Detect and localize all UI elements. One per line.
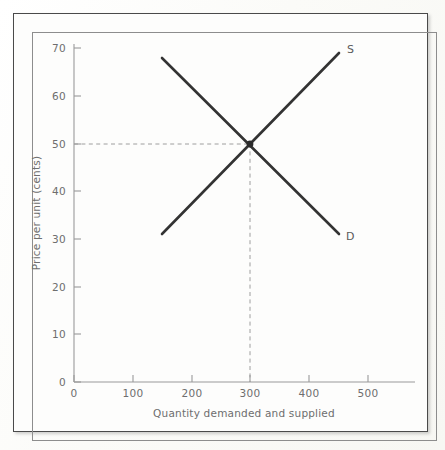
y-tick-label-0: 0 bbox=[59, 376, 66, 388]
x-axis-ticks bbox=[74, 375, 368, 382]
x-tick-label-200: 200 bbox=[182, 387, 203, 399]
x-axis-title: Quantity demanded and supplied bbox=[153, 407, 335, 419]
y-axis-ticks bbox=[74, 48, 81, 382]
x-tick-label-300: 300 bbox=[240, 387, 261, 399]
supply-demand-chart: 0 10 20 30 40 50 60 70 0 100 bbox=[0, 0, 445, 450]
chart-plot-area: 0 10 20 30 40 50 60 70 0 100 bbox=[0, 0, 445, 450]
y-tick-label-20: 20 bbox=[52, 281, 66, 293]
y-axis-title: Price per unit (cents) bbox=[30, 156, 42, 270]
y-tick-label-10: 10 bbox=[52, 328, 66, 340]
demand-curve-label: D bbox=[346, 230, 355, 243]
y-tick-label-30: 30 bbox=[52, 233, 66, 245]
equilibrium-guides bbox=[74, 144, 250, 382]
x-tick-label-400: 400 bbox=[299, 387, 320, 399]
x-tick-label-100: 100 bbox=[123, 387, 144, 399]
y-tick-label-40: 40 bbox=[52, 185, 66, 197]
y-tick-label-60: 60 bbox=[52, 90, 66, 102]
figure-page: 0 10 20 30 40 50 60 70 0 100 bbox=[0, 0, 445, 450]
y-tick-label-50: 50 bbox=[52, 138, 66, 150]
axes bbox=[74, 44, 415, 382]
x-tick-label-500: 500 bbox=[358, 387, 379, 399]
x-tick-label-0: 0 bbox=[71, 387, 78, 399]
supply-curve-label: S bbox=[347, 43, 354, 56]
y-tick-label-70: 70 bbox=[52, 42, 66, 54]
y-axis-tick-labels: 0 10 20 30 40 50 60 70 bbox=[52, 42, 66, 388]
x-axis-tick-labels: 0 100 200 300 400 500 bbox=[71, 387, 379, 399]
equilibrium-point-marker bbox=[247, 141, 254, 148]
